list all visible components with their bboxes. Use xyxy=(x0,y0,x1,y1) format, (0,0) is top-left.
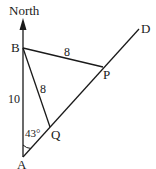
point-label-B: B xyxy=(11,40,20,55)
angle-label-A: 43° xyxy=(25,127,40,139)
point-label-D: D xyxy=(141,21,150,36)
point-label-A: A xyxy=(17,157,27,169)
point-label-P: P xyxy=(103,67,110,82)
north-label: North xyxy=(9,3,40,18)
angle-arc-A xyxy=(23,145,31,149)
diagram-canvas: North B A P Q D 10 8 8 43° xyxy=(0,0,156,169)
north-arrow-icon xyxy=(20,18,27,30)
geometry-diagram: North B A P Q D 10 8 8 43° xyxy=(0,0,156,169)
length-BQ: 8 xyxy=(40,82,46,96)
point-label-Q: Q xyxy=(51,127,61,142)
segment-BP xyxy=(23,48,103,67)
length-BP: 8 xyxy=(64,45,70,59)
length-AB: 10 xyxy=(8,92,20,106)
